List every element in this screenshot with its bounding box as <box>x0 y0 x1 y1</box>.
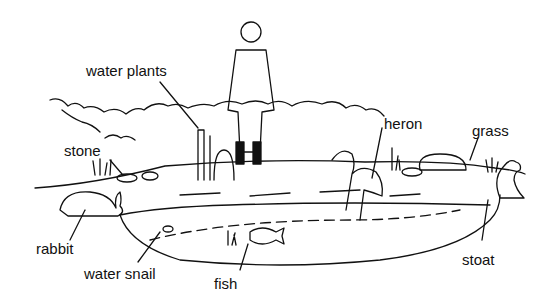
label-stone: stone <box>64 143 101 158</box>
bank-top <box>35 161 525 188</box>
label-water-snail: water snail <box>84 266 156 281</box>
stoat-icon <box>497 161 524 198</box>
hills-line <box>50 99 384 116</box>
person-icon <box>228 22 274 164</box>
label-water-plants: water plants <box>86 63 167 78</box>
label-fish: fish <box>214 276 237 291</box>
label-rabbit: rabbit <box>36 241 74 256</box>
fish-icon <box>250 228 284 244</box>
pond-basin <box>120 195 500 265</box>
label-heron: heron <box>384 116 422 131</box>
rabbit-icon <box>60 192 123 216</box>
label-grass: grass <box>472 123 509 138</box>
pond-diagram: water plants stone heron grass rabbit wa… <box>0 0 560 305</box>
water-snail-icon <box>163 226 173 232</box>
water-plants-icon <box>198 130 234 180</box>
label-stoat: stoat <box>462 252 495 267</box>
